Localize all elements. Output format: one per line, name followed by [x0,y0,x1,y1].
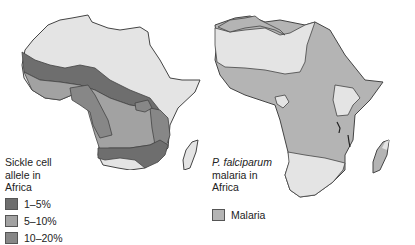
title-line: Africa [5,181,52,194]
sickle-cell-title: Sickle cell allele in Africa [5,156,52,194]
legend-item: 1–5% [5,196,63,211]
madagascar [183,140,198,170]
title-line: allele in [5,169,52,182]
swatch-1-5 [5,198,18,210]
sickle-cell-legend: 1–5% 5–10% 10–20% [5,196,63,245]
swatch-10-20 [5,232,18,244]
malaria-title: P. falciparum malaria in Africa [212,156,272,194]
title-line: Africa [212,181,272,194]
legend-item: 10–20% [5,230,63,245]
malaria-legend: Malaria [212,207,265,224]
legend-label: Malaria [231,209,265,221]
legend-label: 10–20% [24,232,63,244]
legend-item: 5–10% [5,213,63,228]
title-line: malaria in [212,169,272,182]
title-line: P. falciparum [212,156,272,169]
legend-label: 5–10% [24,215,57,227]
swatch-5-10 [5,215,18,227]
legend-item: Malaria [212,207,265,222]
sickle-cell-map [0,0,205,170]
swatch-malaria [212,209,225,221]
title-line: Sickle cell [5,156,52,169]
legend-label: 1–5% [24,198,51,210]
